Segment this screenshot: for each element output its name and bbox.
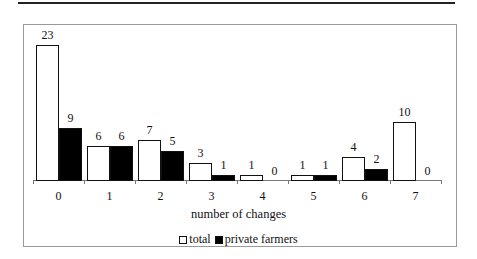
bar-total-2: [138, 140, 161, 181]
x-tick: [135, 180, 136, 184]
x-tick: [390, 180, 391, 184]
value-label-private-0: 9: [59, 112, 83, 124]
value-label-total-0: 23: [36, 29, 60, 41]
x-axis-title: number of changes: [0, 207, 477, 222]
x-tick-label: 7: [404, 189, 428, 204]
top-rule: [18, 2, 455, 4]
x-tick-label: 5: [302, 189, 326, 204]
value-label-private-2: 5: [161, 135, 185, 147]
bar-total-3: [189, 163, 212, 181]
value-label-total-3: 3: [189, 147, 213, 159]
x-tick: [288, 180, 289, 184]
x-tick: [339, 180, 340, 184]
value-label-private-5: 1: [314, 159, 338, 171]
bar-private-0: [59, 128, 82, 181]
legend-label-private-farmers: private farmers: [225, 232, 298, 247]
bar-total-7: [393, 122, 416, 181]
bar-private-5: [314, 175, 337, 181]
x-tick: [237, 180, 238, 184]
x-tick: [186, 180, 187, 184]
x-tick-label: 1: [98, 189, 122, 204]
legend-label-total: total: [189, 232, 210, 247]
bar-total-6: [342, 157, 365, 181]
value-label-total-7: 10: [393, 106, 417, 118]
bar-private-3: [212, 175, 235, 181]
value-label-total-2: 7: [138, 124, 162, 136]
legend-swatch-total-icon: [179, 236, 187, 244]
bar-private-2: [161, 151, 184, 181]
bar-private-6: [365, 169, 388, 181]
value-label-total-4: 1: [240, 159, 264, 171]
legend-item-private-farmers: private farmers: [215, 232, 298, 247]
bar-private-1: [110, 146, 133, 181]
x-tick: [84, 180, 85, 184]
x-tick-label: 3: [200, 189, 224, 204]
plot-area: 239667531101142100: [33, 30, 441, 181]
x-tick-label: 4: [251, 189, 275, 204]
x-tick-label: 0: [47, 189, 71, 204]
bar-total-0: [36, 45, 59, 181]
x-tick: [441, 180, 442, 184]
legend-item-total: total: [179, 232, 210, 247]
value-label-private-7: 0: [416, 165, 440, 177]
x-tick-label: 6: [353, 189, 377, 204]
value-label-total-5: 1: [291, 159, 315, 171]
value-label-private-3: 1: [212, 159, 236, 171]
x-tick-label: 2: [149, 189, 173, 204]
value-label-private-1: 6: [110, 130, 134, 142]
bar-total-5: [291, 175, 314, 181]
bar-total-1: [87, 146, 110, 181]
value-label-private-4: 0: [263, 165, 287, 177]
value-label-private-6: 2: [365, 153, 389, 165]
legend-swatch-private-icon: [215, 236, 223, 244]
value-label-total-1: 6: [87, 130, 111, 142]
legend: total private farmers: [0, 232, 477, 247]
value-label-total-6: 4: [342, 141, 366, 153]
bar-total-4: [240, 175, 263, 181]
x-tick: [33, 180, 34, 184]
